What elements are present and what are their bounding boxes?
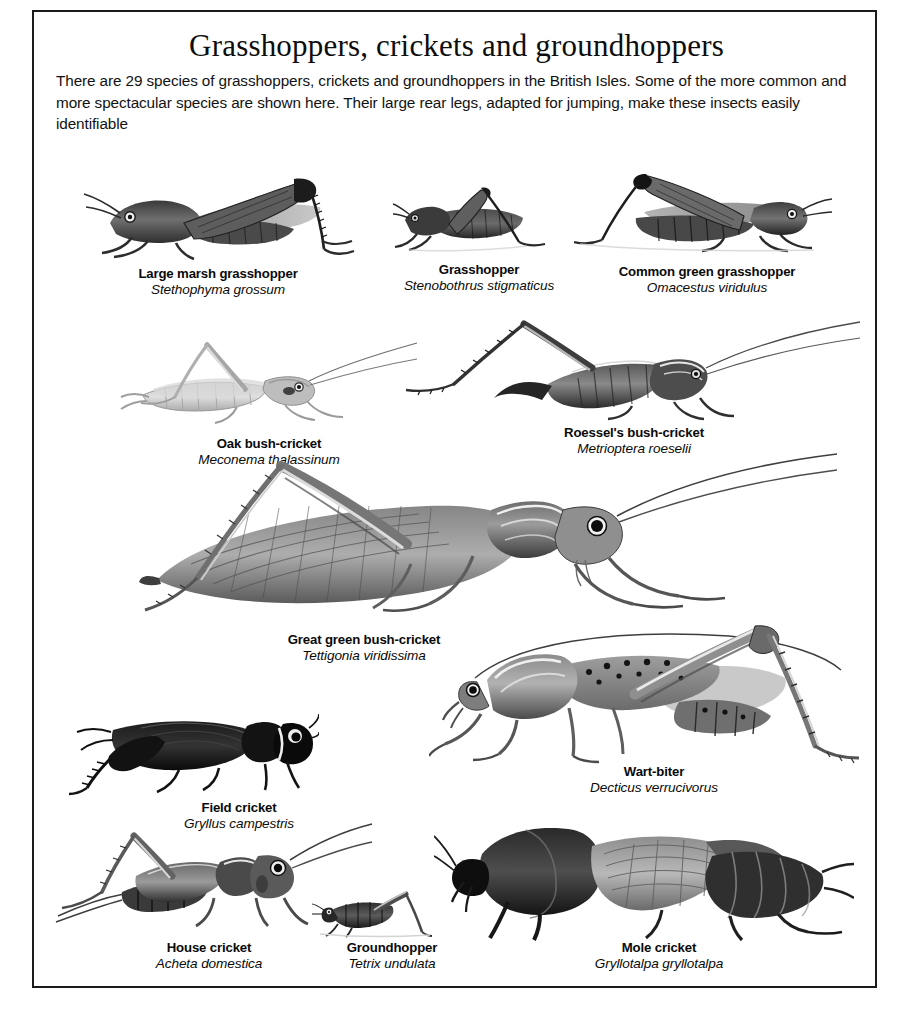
common-name: Roessel's bush-cricket <box>489 425 779 441</box>
illustration-field-cricket <box>69 702 319 797</box>
illustration-mole-cricket <box>434 810 854 942</box>
latin-name: Decticus verrucivorus <box>519 780 789 797</box>
caption-common-green-grasshopper: Common green grasshopper Omacestus virid… <box>562 264 852 296</box>
illustrated-plate-page: Grasshoppers, crickets and groundhoppers… <box>0 0 908 1011</box>
latin-name: Omacestus viridulus <box>562 280 852 297</box>
illustration-wart-biter <box>429 622 879 767</box>
latin-name: Tetrix undulata <box>282 956 502 973</box>
intro-paragraph: There are 29 species of grasshoppers, cr… <box>56 70 864 135</box>
common-name: Large marsh grasshopper <box>58 266 378 282</box>
illustration-groundhopper <box>312 890 432 938</box>
common-name: Wart-biter <box>519 764 789 780</box>
page-title: Grasshoppers, crickets and groundhoppers <box>34 28 879 64</box>
illustration-great-green-bush-cricket <box>139 452 839 627</box>
caption-wart-biter: Wart-biter Decticus verrucivorus <box>519 764 789 796</box>
caption-groundhopper: Groundhopper Tetrix undulata <box>282 940 502 972</box>
common-name: Oak bush-cricket <box>134 436 404 452</box>
common-name: Groundhopper <box>282 940 502 956</box>
illustration-large-marsh-grasshopper <box>72 167 362 262</box>
plate-frame: Grasshoppers, crickets and groundhoppers… <box>32 10 877 988</box>
common-name: Mole cricket <box>519 940 799 956</box>
latin-name: Stethophyma grossum <box>58 282 378 299</box>
illustration-oak-bush-cricket <box>119 337 419 427</box>
illustration-roessels-bush-cricket <box>402 312 862 432</box>
caption-large-marsh-grasshopper: Large marsh grasshopper Stethophyma gros… <box>58 266 378 298</box>
caption-mole-cricket: Mole cricket Gryllotalpa gryllotalpa <box>519 940 799 972</box>
illustration-common-green-grasshopper <box>574 172 834 258</box>
illustration-grasshopper <box>391 184 551 256</box>
common-name: Common green grasshopper <box>562 264 852 280</box>
latin-name: Gryllotalpa gryllotalpa <box>519 956 799 973</box>
